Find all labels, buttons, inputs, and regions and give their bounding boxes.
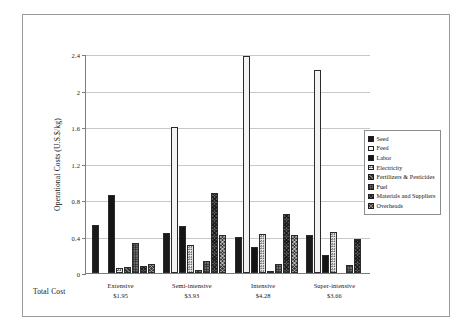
bar-group bbox=[86, 55, 157, 273]
legend-label: Fuel bbox=[377, 184, 388, 190]
legend-item[interactable]: Fertilizers & Pesticides bbox=[368, 172, 436, 182]
chart-legend: SeedFeedLaborElectricityFertilizers & Pe… bbox=[364, 130, 441, 215]
legend-item[interactable]: Seed bbox=[368, 134, 436, 144]
category-label: Super-intensive$3.66 bbox=[298, 281, 370, 300]
bar[interactable] bbox=[132, 243, 139, 273]
category-name: Intensive bbox=[227, 281, 299, 291]
figure-frame: Operational Costs (U.S.$/kg) 00.40.81.21… bbox=[22, 14, 450, 317]
category-total-cost: $3.66 bbox=[298, 291, 370, 301]
legend-swatch-icon bbox=[368, 136, 374, 142]
legend-item[interactable]: Electricity bbox=[368, 163, 436, 173]
bar[interactable] bbox=[259, 234, 266, 273]
legend-swatch-icon bbox=[368, 155, 374, 161]
y-axis-tick-label: 0.8 bbox=[72, 198, 80, 205]
bar[interactable] bbox=[322, 255, 329, 273]
category-label: Intensive$4.28 bbox=[227, 281, 299, 300]
y-axis-tick-label: 0.4 bbox=[72, 234, 80, 241]
bar-group bbox=[157, 55, 228, 273]
category-total-cost: $4.28 bbox=[227, 291, 299, 301]
category-name: Semi-intensive bbox=[156, 281, 228, 291]
bar[interactable] bbox=[148, 264, 155, 273]
legend-swatch-icon bbox=[368, 203, 374, 209]
category-name: Super-intensive bbox=[298, 281, 370, 291]
bar[interactable] bbox=[116, 268, 123, 273]
category-label: Extensive$1.95 bbox=[85, 281, 157, 300]
bar[interactable] bbox=[243, 56, 250, 273]
bar-group bbox=[300, 55, 371, 273]
category-total-cost: $1.95 bbox=[85, 291, 157, 301]
legend-item[interactable]: Fuel bbox=[368, 182, 436, 192]
bar[interactable] bbox=[140, 266, 147, 273]
legend-label: Materials and Suppliers bbox=[377, 193, 436, 199]
bar[interactable] bbox=[251, 247, 258, 273]
bar[interactable] bbox=[163, 233, 170, 273]
bar[interactable] bbox=[267, 271, 274, 273]
y-axis-tick-label: 2.4 bbox=[72, 52, 80, 59]
y-axis-tick-label: 0 bbox=[77, 271, 80, 278]
bar[interactable] bbox=[330, 232, 337, 273]
legend-item[interactable]: Labor bbox=[368, 153, 436, 163]
y-axis-tick-label: 1.6 bbox=[72, 125, 80, 132]
bar[interactable] bbox=[108, 195, 115, 273]
bar[interactable] bbox=[283, 214, 290, 273]
legend-label: Feed bbox=[377, 145, 389, 151]
legend-swatch-icon bbox=[368, 184, 374, 190]
y-axis-title: Operational Costs (U.S.$/kg) bbox=[53, 55, 65, 274]
bar[interactable] bbox=[275, 264, 282, 273]
bar[interactable] bbox=[195, 270, 202, 273]
bar[interactable] bbox=[211, 193, 218, 273]
category-name: Extensive bbox=[85, 281, 157, 291]
category-axis-labels: Extensive$1.95Semi-intensive$3.93Intensi… bbox=[85, 281, 370, 307]
legend-item[interactable]: Materials and Suppliers bbox=[368, 192, 436, 202]
legend-item[interactable]: Feed bbox=[368, 144, 436, 154]
category-total-cost: $3.93 bbox=[156, 291, 228, 301]
legend-swatch-icon bbox=[368, 165, 374, 171]
bar[interactable] bbox=[92, 225, 99, 273]
bar[interactable] bbox=[219, 235, 226, 273]
legend-label: Electricity bbox=[377, 165, 403, 171]
bar[interactable] bbox=[346, 265, 353, 273]
legend-item[interactable]: Overheads bbox=[368, 201, 436, 211]
bar[interactable] bbox=[235, 237, 242, 274]
legend-swatch-icon bbox=[368, 146, 374, 152]
legend-label: Seed bbox=[377, 136, 389, 142]
legend-label: Fertilizers & Pesticides bbox=[377, 174, 435, 180]
bar[interactable] bbox=[306, 235, 313, 273]
bar[interactable] bbox=[314, 70, 321, 273]
bar[interactable] bbox=[124, 267, 131, 273]
bar[interactable] bbox=[179, 226, 186, 273]
category-label: Semi-intensive$3.93 bbox=[156, 281, 228, 300]
plot-area: 00.40.81.21.622.4 bbox=[85, 55, 370, 274]
bar[interactable] bbox=[187, 245, 194, 273]
legend-swatch-icon bbox=[368, 174, 374, 180]
y-axis-tick-label: 1.2 bbox=[72, 161, 80, 168]
legend-swatch-icon bbox=[368, 194, 374, 200]
bar[interactable] bbox=[203, 261, 210, 273]
legend-label: Overheads bbox=[377, 203, 404, 209]
bar[interactable] bbox=[291, 235, 298, 273]
y-axis-tick bbox=[82, 274, 86, 275]
bar[interactable] bbox=[354, 239, 361, 273]
bar-group bbox=[229, 55, 300, 273]
legend-label: Labor bbox=[377, 155, 392, 161]
total-cost-row-label: Total Cost bbox=[33, 287, 65, 296]
y-axis-tick-label: 2 bbox=[77, 88, 80, 95]
bar[interactable] bbox=[171, 127, 178, 273]
